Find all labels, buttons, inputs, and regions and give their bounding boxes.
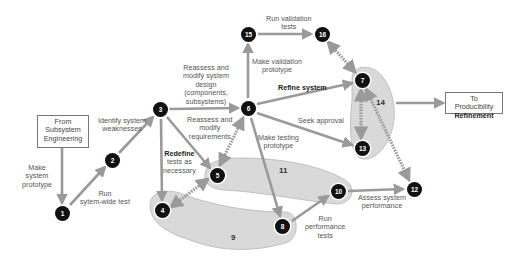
node-16: 16 [315, 27, 330, 42]
to-producibility-refinement-box: To Producibility Refinement [445, 92, 503, 114]
label-reassess-requirements: Reassess and modify requirements [187, 116, 233, 141]
node-8-label: 8 [281, 223, 285, 230]
node-6-label: 6 [247, 105, 251, 112]
node-13: 13 [355, 141, 370, 156]
node-10: 10 [331, 184, 346, 199]
to-box-line1: To Producibility [450, 95, 498, 112]
label-identify-system-weaknesses: Identify system weaknesses [98, 117, 146, 134]
node-1: 1 [55, 206, 70, 221]
from-box-line3: Engineering [42, 135, 84, 143]
label-run-performance-tests: Run performance tests [305, 215, 345, 240]
node-4-label: 4 [161, 207, 165, 214]
arrow-3-to-6 [169, 108, 238, 109]
label-run-validation-tests: Run validation tests [266, 15, 312, 32]
node-12-label: 12 [411, 186, 418, 193]
node-1-label: 1 [61, 210, 65, 217]
node-15: 15 [241, 27, 256, 42]
dashed-arrow-16-to-7 [328, 42, 355, 72]
label-make-validation-prototype: Make validation prototype [252, 58, 302, 75]
node-15-label: 15 [245, 31, 252, 38]
node-4: 4 [155, 203, 170, 218]
node-5-label: 5 [216, 172, 220, 179]
node-13-label: 13 [359, 145, 366, 152]
node-12: 12 [407, 182, 422, 197]
node-10-label: 10 [335, 188, 342, 195]
label-seek-approval: Seek approval [298, 117, 344, 125]
group-11-region [205, 158, 352, 204]
group-11-label: 11 [279, 166, 287, 175]
node-6: 6 [241, 101, 256, 116]
label-make-testing-prototype: Make testing prototype [258, 134, 299, 151]
to-box-line2: Refinement [450, 112, 498, 120]
node-16-label: 16 [319, 31, 326, 38]
from-subsystem-engineering-box: From Subsystem Engineering [37, 115, 89, 148]
label-redefine-tests: Redefine tests as necessary [163, 150, 196, 175]
node-3-label: 3 [159, 106, 163, 113]
label-reassess-system-design: Reassess and modify system design (compo… [183, 64, 229, 106]
node-2: 2 [105, 153, 120, 168]
group-14-label: 14 [376, 98, 385, 107]
node-5: 5 [210, 168, 225, 183]
node-8: 8 [275, 219, 290, 234]
node-7-label: 7 [361, 77, 365, 84]
arrow-10-to-12 [348, 189, 403, 191]
node-2-label: 2 [111, 157, 115, 164]
node-3: 3 [153, 102, 168, 117]
label-refine-system: Refine system [278, 84, 327, 92]
label-run-system-wide-test: Run sytem-wide test [80, 190, 130, 207]
arrow-3-to-4 [161, 119, 162, 200]
label-assess-system-performance: Assess system performance [358, 194, 406, 211]
group-9-label: 9 [231, 233, 235, 242]
label-make-system-prototype: Make system prototype [22, 164, 52, 189]
node-7: 7 [355, 73, 370, 88]
